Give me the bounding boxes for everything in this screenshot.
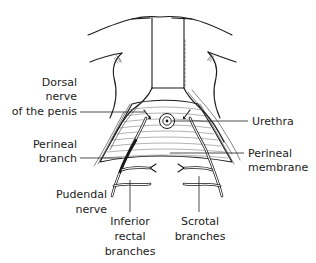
label-dorsal-nerve-line3: of the penis xyxy=(12,105,77,118)
label-scrotal-branches-line1: Scrotal xyxy=(181,215,219,228)
label-pudendal-nerve: Pudendal nerve xyxy=(56,188,107,216)
label-scrotal-branches-line2: branches xyxy=(175,230,226,243)
label-perineal-branch-line2: branch xyxy=(39,152,77,165)
label-inferior-rectal: Inferior rectal branches xyxy=(105,215,156,258)
label-pudendal-nerve-line1: Pudendal xyxy=(56,188,107,201)
label-pudendal-nerve-line2: nerve xyxy=(75,203,107,216)
label-dorsal-nerve-line2: nerve xyxy=(45,90,77,103)
label-perineal-membrane-line1: Perineal xyxy=(248,147,292,160)
upper-outline xyxy=(88,17,240,160)
label-perineal-membrane: Perineal membrane xyxy=(248,147,308,174)
label-dorsal-nerve: Dorsal nerve of the penis xyxy=(12,76,77,118)
label-urethra: Urethra xyxy=(252,115,294,128)
label-dorsal-nerve-line1: Dorsal xyxy=(42,76,77,89)
label-inferior-rectal-line1: Inferior xyxy=(110,215,150,228)
anatomy-diagram: Dorsal nerve of the penis Urethra Perine… xyxy=(0,0,316,263)
label-perineal-branch-line1: Perineal xyxy=(33,138,77,151)
label-scrotal-branches: Scrotal branches xyxy=(175,215,226,243)
label-inferior-rectal-line3: branches xyxy=(105,245,156,258)
label-perineal-branch: Perineal branch xyxy=(33,138,77,165)
label-inferior-rectal-line2: rectal xyxy=(114,230,145,243)
label-urethra-line1: Urethra xyxy=(252,115,294,128)
label-perineal-membrane-line2: membrane xyxy=(248,161,308,174)
